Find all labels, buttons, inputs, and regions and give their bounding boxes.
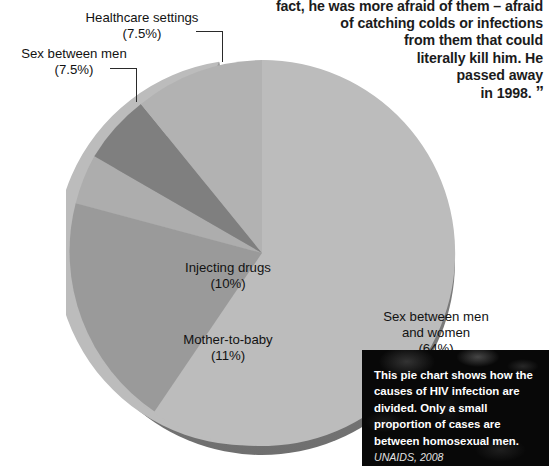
- leader-line-healthcare-vertical: [222, 31, 223, 62]
- pie-label-injecting-drugs-pct: (10%): [163, 276, 293, 292]
- leader-line-sex-between-men-vertical: [136, 68, 137, 102]
- pull-quote-line-1: fact, he was more afraid of them – afrai…: [225, 0, 543, 15]
- pull-quote-line-5: passed away: [225, 67, 543, 84]
- close-quote-icon: ”: [536, 83, 544, 102]
- pie-label-mother-to-baby-pct: (11%): [160, 348, 296, 364]
- pull-quote-line-6-text: in 1998.: [480, 85, 531, 101]
- pie-chart-page: fact, he was more afraid of them – afrai…: [0, 0, 549, 466]
- pie-label-sex-mw-line1: Sex between men: [383, 309, 489, 324]
- pie-label-sex-between-men: Sex between men (7.5%): [0, 46, 150, 78]
- leader-line-sex-between-men-horizontal: [110, 68, 137, 69]
- pull-quote-line-6: in 1998. ”: [225, 84, 543, 102]
- pie-label-sex-between-men-pct: (7.5%): [0, 62, 150, 78]
- pie-label-mother-to-baby: Mother-to-baby (11%): [160, 332, 296, 364]
- pie-label-healthcare-settings-pct: (7.5%): [62, 26, 222, 42]
- pie-label-healthcare-settings-name: Healthcare settings: [86, 10, 199, 25]
- pull-quote-line-2: of catching colds or infections: [225, 15, 543, 32]
- pull-quote: fact, he was more afraid of them – afrai…: [225, 0, 543, 102]
- pie-label-sex-between-men-name: Sex between men: [21, 46, 127, 61]
- pie-label-injecting-drugs: Injecting drugs (10%): [163, 260, 293, 292]
- pull-quote-line-4: literally kill him. He: [225, 50, 543, 67]
- leader-line-healthcare-horizontal: [196, 31, 223, 32]
- pie-label-injecting-drugs-name: Injecting drugs: [185, 260, 271, 275]
- pie-label-healthcare-settings: Healthcare settings (7.5%): [62, 10, 222, 42]
- caption-source: UNAIDS, 2008: [362, 449, 549, 463]
- chart-caption-box: This pie chart shows how the causes of H…: [362, 350, 549, 466]
- pie-label-sex-mw-line2: and women: [366, 325, 506, 341]
- pie-label-mother-to-baby-name: Mother-to-baby: [183, 332, 272, 347]
- pull-quote-line-3: from them that could: [225, 32, 543, 49]
- caption-body: This pie chart shows how the causes of H…: [362, 350, 549, 449]
